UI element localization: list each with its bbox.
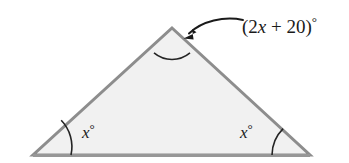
apex-angle-degree-symbol: ° xyxy=(312,14,317,29)
apex-angle-suffix: + 20) xyxy=(266,16,312,37)
right-base-angle-label: x° xyxy=(240,122,253,141)
left-base-angle-variable: x xyxy=(82,123,90,142)
right-base-angle-degree-symbol: ° xyxy=(248,121,253,136)
apex-angle-variable: x xyxy=(258,16,266,37)
geometry-figure: (2x + 20)° x° x° xyxy=(0,0,349,163)
left-base-angle-degree-symbol: ° xyxy=(90,121,95,136)
apex-angle-label: (2x + 20)° xyxy=(242,15,317,36)
callout-arrow-head xyxy=(184,29,197,40)
apex-angle-prefix: (2 xyxy=(242,16,258,37)
callout-arrow-curve xyxy=(189,19,243,34)
left-base-angle-label: x° xyxy=(82,122,95,141)
right-base-angle-variable: x xyxy=(240,123,248,142)
triangle-shape xyxy=(33,28,310,155)
